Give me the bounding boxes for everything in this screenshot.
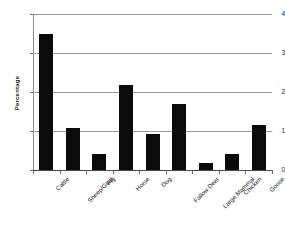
x-tick-mark: [113, 171, 114, 174]
bar: [199, 163, 213, 170]
x-tick-mark: [219, 171, 220, 174]
bar: [146, 134, 160, 170]
x-axis-line: [33, 170, 273, 171]
x-tick-mark: [272, 171, 273, 174]
x-tick-label: Goose: [268, 176, 285, 193]
x-tick-mark: [33, 171, 34, 174]
x-tick-label: Horse: [135, 176, 151, 192]
bar: [119, 85, 133, 170]
x-tick-label: Dog: [160, 176, 172, 188]
bar-chart: Percentage 01234 CattleSheep/GoatPigHors…: [0, 0, 285, 228]
x-tick-label: Cattle: [55, 176, 71, 192]
gridline: [33, 53, 272, 54]
gridline: [33, 92, 272, 93]
gridline: [33, 14, 272, 15]
x-tick-mark: [60, 171, 61, 174]
bar: [252, 125, 266, 170]
bar: [39, 34, 53, 171]
x-tick-label: Fallow Deer: [193, 176, 221, 204]
x-tick-mark: [166, 171, 167, 174]
x-tick-mark: [86, 171, 87, 174]
bar: [225, 154, 239, 170]
x-tick-mark: [192, 171, 193, 174]
plot-area: [33, 14, 272, 170]
x-tick-mark: [139, 171, 140, 174]
bar: [172, 104, 186, 170]
bar: [92, 154, 106, 170]
bar: [66, 128, 80, 170]
x-tick-mark: [245, 171, 246, 174]
x-tick-label: Pig: [106, 176, 117, 187]
y-axis-title: Percentage: [10, 8, 24, 178]
